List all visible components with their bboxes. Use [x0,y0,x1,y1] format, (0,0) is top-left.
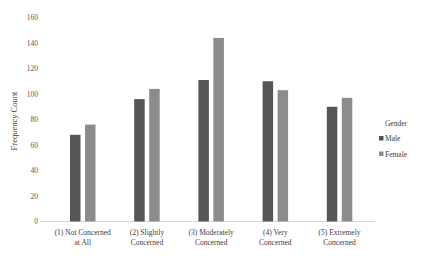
x-category-label: (5) Extremely [319,228,361,237]
bar-chart: 020406080100120140160 Frequency Count (1… [0,0,421,256]
x-category-label: (2) Slightly [130,228,165,237]
y-tick-label: 80 [31,115,39,124]
y-tick-label: 160 [27,13,39,22]
y-axis-title: Frequency Count [9,91,19,150]
bar-male-2 [134,99,145,221]
y-tick-label: 40 [31,166,39,175]
x-category-label: Concerned [259,238,292,247]
bars [70,38,352,222]
legend-label-female: Female [385,150,408,159]
legend: Gender MaleFemale [379,119,408,159]
x-category-label: Concerned [131,238,164,247]
bar-female-4 [278,90,289,221]
legend-swatch-female [379,152,384,157]
y-tick-label: 60 [31,141,39,150]
bar-male-5 [327,107,338,222]
y-tick-label: 0 [34,217,38,226]
x-category-label: at All [75,238,91,247]
y-tick-label: 120 [27,64,39,73]
bar-male-1 [70,135,81,222]
bar-female-2 [149,89,160,222]
y-tick-label: 20 [31,192,39,201]
x-axis-labels: (1) Not Concernedat All(2) SlightlyConce… [55,228,361,247]
x-category-label: (1) Not Concerned [55,228,111,237]
x-category-label: Concerned [323,238,356,247]
y-tick-label: 100 [27,90,39,99]
bar-female-5 [342,98,353,222]
y-tick-label: 140 [27,39,39,48]
bar-female-1 [85,125,96,222]
legend-label-male: Male [385,134,401,143]
legend-title: Gender [385,119,408,128]
bar-male-4 [263,81,274,221]
bar-male-3 [198,80,209,222]
y-axis: 020406080100120140160 [27,13,39,226]
x-category-label: Concerned [195,238,228,247]
x-category-label: (3) Moderately [189,228,234,237]
x-category-label: (4) Very [263,228,288,237]
legend-swatch-male [379,136,384,141]
bar-female-3 [213,38,224,222]
